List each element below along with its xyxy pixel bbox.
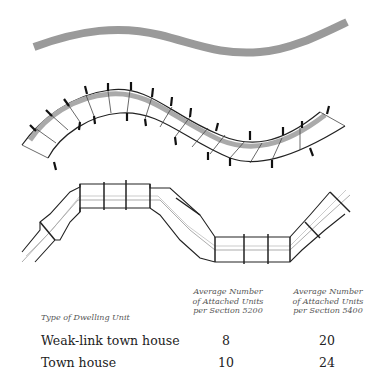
row-type-town-house: Town house bbox=[41, 355, 116, 370]
row-town-house-5200: 10 bbox=[206, 355, 246, 370]
row-weak-link-5200: 8 bbox=[206, 333, 246, 348]
col-header-5200: Average Number of Attached Units per Sec… bbox=[183, 287, 273, 316]
row-type-weak-link: Weak-link town house bbox=[41, 333, 180, 348]
col-header-5400: Average Number of Attached Units per Sec… bbox=[283, 287, 373, 316]
col-header-type: Type of Dwelling Unit bbox=[41, 313, 130, 323]
row-weak-link-5400: 20 bbox=[307, 333, 347, 348]
row-town-house-5400: 24 bbox=[307, 355, 347, 370]
units-table: Type of Dwelling Unit Average Number of … bbox=[0, 0, 374, 375]
